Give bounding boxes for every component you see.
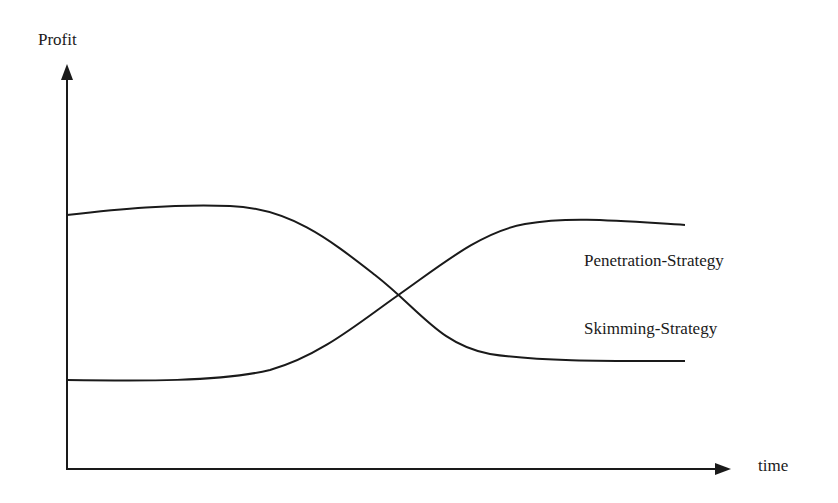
penetration-strategy-label: Penetration-Strategy bbox=[584, 252, 724, 269]
y-axis-label: Profit bbox=[38, 31, 77, 48]
penetration-strategy-curve bbox=[67, 220, 685, 381]
x-axis-arrow-icon bbox=[715, 463, 731, 475]
x-axis-label: time bbox=[758, 457, 788, 474]
y-axis-arrow-icon bbox=[61, 64, 73, 80]
skimming-strategy-label: Skimming-Strategy bbox=[584, 320, 717, 337]
